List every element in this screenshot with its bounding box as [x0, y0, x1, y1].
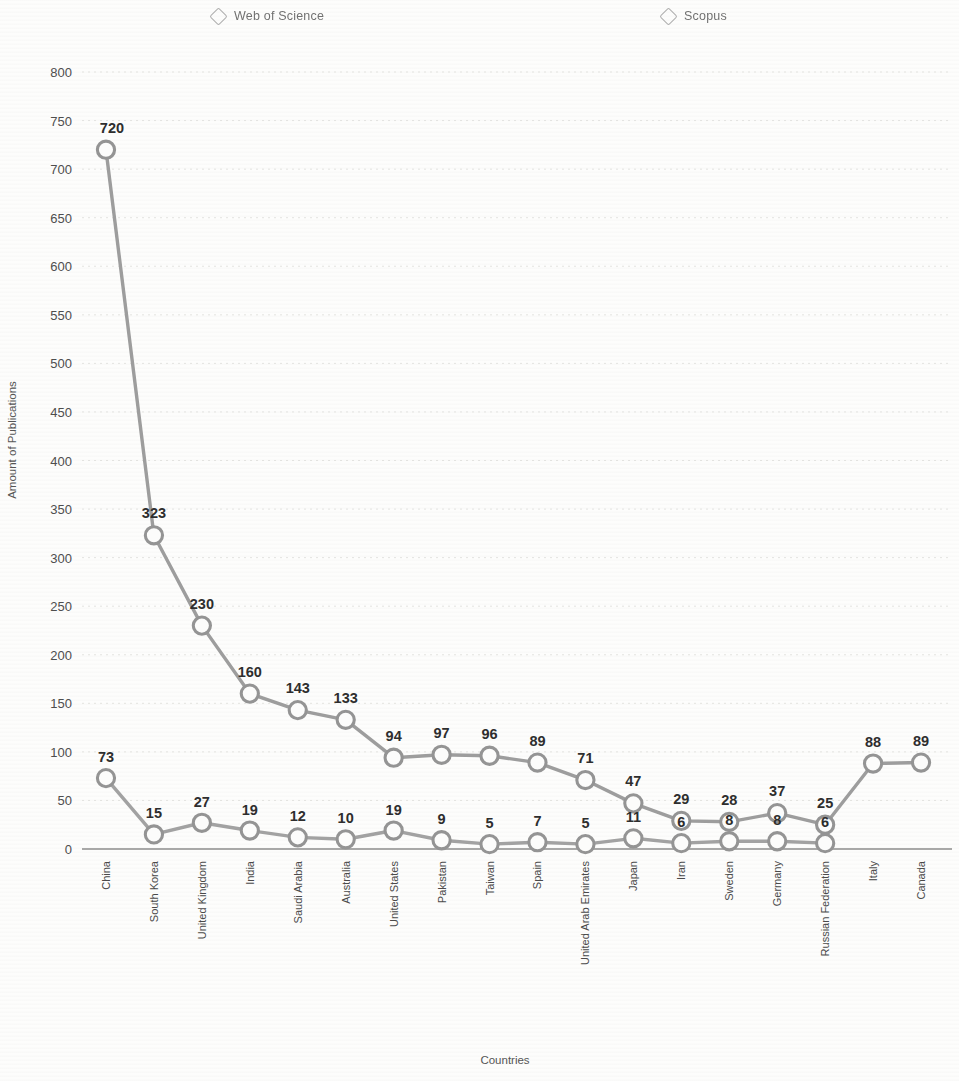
data-point-labels: 7203232301601431339497968971472928372588…: [98, 120, 929, 831]
series-lines: [106, 150, 921, 844]
data-label-upper: 25: [817, 795, 833, 811]
data-point-marker: [769, 833, 786, 850]
x-category-label: United States: [388, 861, 400, 928]
line-chart: 0501001502002503003504004505005506006507…: [0, 0, 959, 1081]
data-label-upper: 94: [386, 728, 402, 744]
data-point-marker: [193, 617, 210, 634]
data-point-marker: [145, 826, 162, 843]
data-label-upper: 160: [238, 664, 262, 680]
series-line-scopus: [106, 150, 921, 825]
x-category-label: Saudi Arabia: [292, 860, 304, 923]
data-point-marker: [385, 749, 402, 766]
y-tick-label: 300: [50, 551, 72, 566]
data-point-marker: [817, 835, 834, 852]
y-tick-label: 700: [50, 162, 72, 177]
data-point-marker: [145, 527, 162, 544]
y-tick-label: 0: [65, 842, 72, 857]
x-axis-title: Countries: [480, 1054, 529, 1066]
data-label-upper: 323: [142, 505, 166, 521]
x-category-label: Sweden: [723, 861, 735, 901]
data-label-lower: 19: [242, 802, 258, 818]
data-point-marker: [337, 831, 354, 848]
data-point-marker: [289, 702, 306, 719]
x-category-label: Taiwan: [484, 861, 496, 895]
data-point-marker: [481, 836, 498, 853]
y-tick-label: 800: [50, 65, 72, 80]
chart-plot-area: 0501001502002503003504004505005506006507…: [0, 0, 959, 1081]
data-label-upper: 89: [913, 733, 929, 749]
data-label-lower: 6: [677, 814, 685, 830]
data-point-marker: [577, 836, 594, 853]
data-label-upper: 97: [434, 725, 450, 741]
y-tick-label: 250: [50, 599, 72, 614]
data-point-marker: [481, 747, 498, 764]
series-markers: [97, 141, 929, 853]
data-point-marker: [241, 822, 258, 839]
data-point-marker: [673, 835, 690, 852]
data-point-marker: [97, 769, 114, 786]
data-point-marker: [193, 814, 210, 831]
data-point-marker: [912, 754, 929, 771]
data-point-marker: [577, 771, 594, 788]
y-tick-label: 100: [50, 745, 72, 760]
data-point-marker: [864, 755, 881, 772]
y-tick-label: 200: [50, 648, 72, 663]
x-category-label: United Arab Emirates: [579, 861, 591, 965]
data-label-upper: 47: [625, 773, 641, 789]
data-point-marker: [529, 754, 546, 771]
data-label-lower: 12: [290, 808, 306, 824]
x-axis-category-labels: ChinaSouth KoreaUnited KingdomIndiaSaudi…: [100, 860, 927, 965]
x-category-label: China: [100, 860, 112, 890]
data-label-lower: 11: [626, 809, 641, 825]
data-label-upper: 28: [721, 792, 737, 808]
series-line-web-of-science: [106, 778, 825, 844]
x-category-label: United Kingdom: [196, 861, 208, 939]
data-label-upper: 143: [286, 680, 310, 696]
data-label-lower: 73: [98, 749, 114, 765]
data-point-marker: [529, 834, 546, 851]
y-tick-label: 50: [58, 793, 72, 808]
data-label-upper: 96: [481, 726, 497, 742]
axis-titles: Amount of PublicationsCountries: [6, 381, 530, 1066]
x-category-label: South Korea: [148, 860, 160, 922]
data-label-lower: 15: [146, 805, 162, 821]
y-axis-tick-labels: 0501001502002503003504004505005506006507…: [50, 65, 72, 857]
x-category-label: Germany: [771, 861, 783, 907]
x-category-label: Japan: [627, 861, 639, 891]
y-tick-label: 450: [50, 405, 72, 420]
data-label-upper: 133: [334, 690, 358, 706]
data-point-marker: [337, 711, 354, 728]
data-label-upper: 720: [100, 120, 124, 136]
data-label-lower: 19: [386, 802, 402, 818]
data-label-lower: 27: [194, 794, 210, 810]
data-label-lower: 8: [773, 812, 781, 828]
data-point-marker: [289, 829, 306, 846]
y-tick-label: 150: [50, 696, 72, 711]
data-point-marker: [97, 141, 114, 158]
data-label-upper: 88: [865, 734, 881, 750]
data-label-lower: 6: [821, 814, 829, 830]
y-tick-label: 350: [50, 502, 72, 517]
data-label-lower: 5: [485, 815, 493, 831]
data-label-lower: 10: [338, 810, 354, 826]
x-category-label: Canada: [915, 860, 927, 899]
x-category-label: Italy: [867, 861, 879, 882]
x-category-label: Spain: [531, 861, 543, 889]
x-category-label: Iran: [675, 861, 687, 880]
y-tick-label: 600: [50, 259, 72, 274]
data-label-lower: 8: [725, 812, 733, 828]
data-label-lower: 5: [581, 815, 589, 831]
data-label-upper: 89: [529, 733, 545, 749]
data-point-marker: [433, 746, 450, 763]
data-label-upper: 230: [190, 596, 214, 612]
y-tick-label: 550: [50, 308, 72, 323]
y-tick-label: 500: [50, 356, 72, 371]
y-tick-label: 750: [50, 114, 72, 129]
data-point-marker: [385, 822, 402, 839]
data-label-lower: 7: [533, 813, 541, 829]
data-label-upper: 71: [577, 750, 593, 766]
data-point-marker: [241, 685, 258, 702]
data-point-marker: [433, 832, 450, 849]
data-point-marker: [721, 833, 738, 850]
y-axis-title: Amount of Publications: [6, 381, 18, 499]
